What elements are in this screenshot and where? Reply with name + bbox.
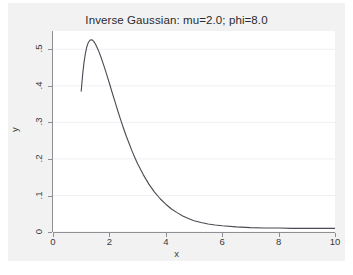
y-axis-tick: [48, 232, 52, 233]
chart-figure: Inverse Gaussian: mu=2.0; phi=8.0 0.1.2.…: [0, 0, 353, 275]
y-axis-tick-label: .4: [33, 77, 44, 93]
y-axis-line: [52, 31, 53, 232]
y-axis-tick: [48, 122, 52, 123]
x-axis-title: x: [0, 248, 353, 259]
series-line: [81, 40, 335, 229]
y-axis-tick-label: .2: [33, 150, 44, 166]
x-axis-tick-label: 6: [211, 236, 233, 247]
y-axis-tick-label: .3: [33, 114, 44, 130]
x-axis-tick-label: 10: [324, 236, 346, 247]
gridlines: [53, 49, 335, 232]
y-axis-tick-label: .1: [33, 187, 44, 203]
plot-svg: [53, 31, 335, 232]
chart-title: Inverse Gaussian: mu=2.0; phi=8.0: [0, 14, 353, 26]
y-axis-title: y: [9, 122, 20, 138]
y-axis-tick-label: .5: [33, 41, 44, 57]
y-axis-tick: [48, 196, 52, 197]
x-axis-tick-label: 0: [42, 236, 64, 247]
x-axis-tick-label: 2: [98, 236, 120, 247]
x-axis-tick-label: 4: [155, 236, 177, 247]
x-axis-tick-label: 8: [268, 236, 290, 247]
plot-area: [53, 31, 335, 232]
y-axis-tick: [48, 49, 52, 50]
x-axis-line: [53, 232, 335, 233]
y-axis-tick: [48, 86, 52, 87]
series-group: [81, 40, 335, 229]
y-axis-tick: [48, 159, 52, 160]
